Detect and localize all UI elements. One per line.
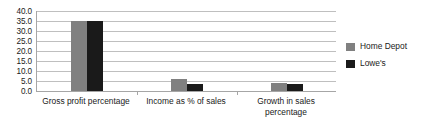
bar-home-depot-growth-in-sales-percentage (271, 83, 287, 91)
bar-group-gross-profit-percentage (37, 11, 137, 91)
x-axis-label-gross-profit-percentage: Gross profit percentage (42, 96, 130, 107)
bar-lowes-gross-profit-percentage (87, 21, 103, 91)
y-axis-tick-labels: 40.0 35.0 30.0 25.0 20.0 15.0 10.0 5.0 0… (0, 8, 34, 92)
legend-item-home-depot: Home Depot (346, 40, 430, 53)
bar-lowes-income-as-percent-of-sales (187, 84, 203, 91)
legend: Home Depot Lowe's (346, 40, 430, 74)
bar-lowes-growth-in-sales-percentage (287, 84, 303, 91)
legend-swatch-icon-home-depot (346, 43, 355, 51)
y-axis-tick-label: 15.0 (0, 58, 32, 66)
bar-home-depot-gross-profit-percentage (71, 21, 87, 91)
y-axis-tick-label: 35.0 (0, 18, 32, 26)
legend-label-lowes: Lowe's (360, 59, 386, 68)
y-axis-tick-label: 20.0 (0, 48, 32, 56)
y-axis-tick-label: 30.0 (0, 28, 32, 36)
bar-chart: 40.0 35.0 30.0 25.0 20.0 15.0 10.0 5.0 0… (0, 0, 430, 132)
y-axis-tick-label: 10.0 (0, 68, 32, 76)
y-axis-tick-label: 5.0 (0, 78, 32, 86)
legend-item-lowes: Lowe's (346, 57, 430, 70)
legend-label-home-depot: Home Depot (360, 42, 407, 51)
x-axis-label-growth-in-sales-percentage: Growth in sales percentage (242, 96, 330, 117)
y-axis-tick-label: 40.0 (0, 8, 32, 16)
bar-group-growth-in-sales-percentage (237, 11, 337, 91)
legend-swatch-icon-lowes (346, 60, 355, 68)
bar-group-income-as-percent-of-sales (137, 11, 237, 91)
y-axis-tick-label: 0.0 (0, 88, 32, 96)
x-axis-tick (137, 91, 138, 95)
x-axis-tick (237, 91, 238, 95)
bar-home-depot-income-as-percent-of-sales (171, 79, 187, 91)
x-axis-category-labels: Gross profit percentage Income as % of s… (36, 96, 336, 130)
x-axis-label-income-as-percent-of-sales: Income as % of sales (140, 96, 232, 107)
plot-area (36, 11, 336, 92)
y-axis-tick-label: 25.0 (0, 38, 32, 46)
